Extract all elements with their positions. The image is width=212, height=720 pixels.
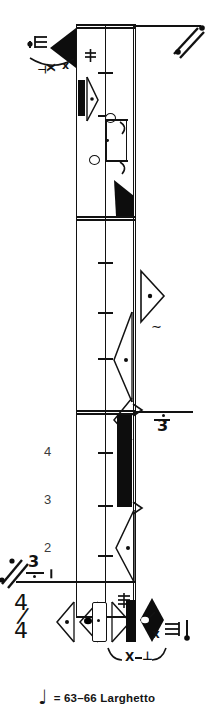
slur-dash (135, 657, 142, 659)
ledger-tick-8 (98, 555, 113, 557)
ledger-tick-7 (98, 505, 113, 507)
articulation-x-slur: X (125, 651, 134, 663)
staff-line-mid (105, 24, 106, 618)
final-solid-block (126, 600, 136, 642)
tuplet-tick-left (51, 569, 53, 578)
time-sig-denominator: 4 (14, 620, 28, 642)
bar-number-3: 3 (44, 492, 51, 507)
tuplet-3-left: 3 (28, 554, 39, 570)
tremolo-mark-top (84, 48, 98, 68)
final-wedge (136, 596, 166, 646)
bar-number-4: 4 (44, 444, 51, 459)
final-note-1 (54, 600, 78, 644)
barline-m2 (76, 219, 135, 221)
ledger-tick-3 (98, 262, 113, 264)
ledger-tick-6 (98, 452, 113, 454)
score-canvas: X ⊥ x (0, 0, 212, 720)
final-note-3-head (92, 602, 107, 642)
halfnote-outside-right (138, 268, 168, 326)
note-triangle-bar2 (110, 310, 136, 406)
dynamic-marking-bottom-right (163, 618, 199, 648)
tuplet-bracket-left (26, 572, 44, 574)
articulation-perp-slur: ⊥ (142, 650, 153, 662)
hook-2 (118, 160, 132, 176)
bar-number-2: 2 (44, 540, 51, 555)
barline-top2 (76, 27, 135, 29)
flag-filled-bar1-end (112, 176, 138, 218)
tempo-marking: ♩ = 63–66 Larghetto (38, 690, 155, 706)
notehead-open-2 (89, 155, 100, 165)
tempo-text: = 63–66 Larghetto (54, 692, 156, 704)
slur-top-left (28, 56, 76, 74)
solid-beam-bar3 (117, 415, 132, 507)
accent-marker-m3 (130, 402, 146, 418)
hook-1 (118, 120, 132, 136)
tuplet-bracket-right (154, 419, 170, 421)
stem-1 (106, 119, 107, 161)
barline-top (76, 24, 135, 26)
quarter-note-icon: ♩ (38, 689, 48, 705)
caesura-top-right (168, 22, 210, 64)
note-triangle-bar4 (112, 508, 138, 586)
tilde-mark-right: ∼ (151, 320, 162, 333)
slur-bottom (106, 646, 168, 664)
articulation-x-bottom: x (152, 628, 160, 640)
ledger-tick-1 (98, 72, 113, 74)
